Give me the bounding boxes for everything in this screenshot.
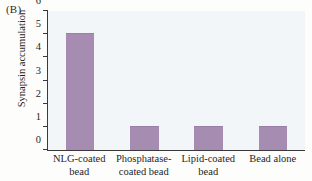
x-tick-label-line: Phosphatase- (112, 153, 177, 166)
bar (130, 126, 158, 150)
bar (66, 33, 94, 150)
bar-series (48, 11, 305, 150)
bar-slot (177, 11, 241, 150)
x-tick-label: NLG-coatedbead (47, 153, 112, 178)
y-tick-label: 3 (36, 64, 41, 75)
x-tick-label: Phosphatase-coated bead (112, 153, 177, 178)
y-tick-label: 1 (36, 110, 41, 121)
y-tick-label: 5 (36, 18, 41, 29)
x-tick-label: Lipid-coatedbead (176, 153, 241, 178)
bar-slot (48, 11, 112, 150)
plot-area: 0123456 (47, 11, 305, 151)
y-tick-label: 4 (36, 41, 41, 52)
y-tick-label: 2 (36, 87, 41, 98)
y-tick-label: 6 (36, 0, 41, 6)
y-tick-label: 0 (36, 134, 41, 145)
figure-panel-b: (B) Synapsin accumulation 0123456 NLG-co… (0, 0, 312, 181)
x-axis-tick-labels: NLG-coatedbeadPhosphatase-coated beadLip… (47, 153, 305, 178)
x-tick-label-line: Bead alone (241, 153, 306, 166)
bar (259, 126, 287, 150)
y-axis-title: Synapsin accumulation (16, 0, 27, 129)
x-tick-label-line: NLG-coated (47, 153, 112, 166)
bar-slot (241, 11, 305, 150)
x-tick-label: Bead alone (241, 153, 306, 178)
x-tick-label-line: coated bead (112, 166, 177, 179)
x-tick-label-line: bead (47, 166, 112, 179)
bar (194, 126, 222, 150)
bar-slot (112, 11, 176, 150)
x-tick-label-line: bead (176, 166, 241, 179)
x-tick-label-line: Lipid-coated (176, 153, 241, 166)
